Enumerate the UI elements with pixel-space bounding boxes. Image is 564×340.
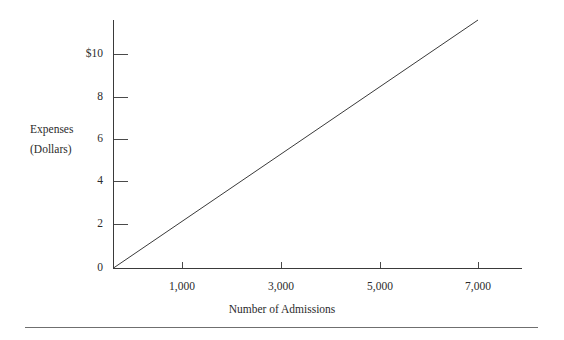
- x-tick-label-1000: 1,000: [169, 281, 195, 293]
- x-axis-title: Number of Admissions: [0, 303, 564, 315]
- y-tick-label-6: 6: [97, 133, 103, 145]
- y-tick-label-4: 4: [97, 175, 103, 187]
- y-axis-title-line1: Expenses: [30, 119, 73, 139]
- y-axis-title-line2: (Dollars): [30, 139, 73, 159]
- x-tick-label-3000: 3,000: [268, 281, 294, 293]
- chart-figure: $10 8 6 4 2 0 1,000 3,000 5,000 7,000 Ex…: [0, 0, 564, 340]
- x-tick-label-7000: 7,000: [465, 281, 491, 293]
- y-tick-label-2: 2: [97, 218, 103, 230]
- y-tick-label-0: 0: [97, 262, 103, 274]
- y-axis-title: Expenses (Dollars): [30, 119, 73, 159]
- y-tick-label-10: $10: [86, 48, 103, 60]
- expenses-line-series: [114, 20, 479, 268]
- y-tick-label-8: 8: [97, 91, 103, 103]
- x-tick-label-5000: 5,000: [367, 281, 393, 293]
